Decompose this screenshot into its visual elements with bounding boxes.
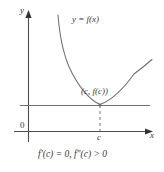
y-axis-label: y xyxy=(20,6,24,15)
critical-point-label: (c, f(c)) xyxy=(81,87,108,96)
minimum-point-marker xyxy=(99,104,102,107)
curve-equation-label: y = f(x) xyxy=(72,15,99,24)
x-tick-label-c: c xyxy=(97,133,101,142)
origin-label: 0 xyxy=(20,121,25,130)
y-axis-arrow-icon xyxy=(25,10,31,18)
function-graph-figure: y x 0 c y = f(x) (c, f(c)) f′(c) = 0, f″… xyxy=(0,0,164,172)
x-axis-label: x xyxy=(150,131,154,140)
derivative-condition-caption: f′(c) = 0, f″(c) > 0 xyxy=(38,150,107,160)
